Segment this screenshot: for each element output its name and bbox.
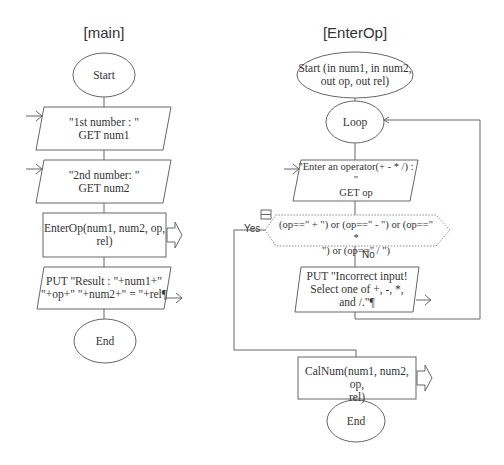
subroutine-arrow-icon [417,365,432,391]
enterop-call-label: CalNum(num1, num2, op, rel) [298,365,416,404]
main-end-label: End [75,335,135,348]
enterop-end-label: End [326,415,386,428]
enterop-error-label: PUT "Incorrect input! Select one of +, -… [298,270,416,309]
no-label: No [362,249,375,260]
enterop-start-label: Start (in num1, in num2, out op, out rel… [297,62,413,88]
main-start-label: Start [74,69,134,82]
breakpoint-icon[interactable] [261,210,271,219]
main-call-label: EnterOp(num1, num2, op, rel) [43,222,166,248]
flowchart-canvas: [main] Start "1st number : " GET num1 "2… [0,0,504,465]
main-input1-label: "1st number : " GET num1 [40,116,168,142]
enterop-input-label: "Enter an operator(+ - * /) : " GET op [296,160,416,199]
yes-label: Yes [244,223,260,234]
enterop-title: [EnterOp] [310,24,400,41]
main-input2-label: "2nd number: " GET num2 [40,169,168,195]
error-output-arrow-icon [416,295,431,305]
enterop-loop-label: Loop [325,116,385,129]
main-title: [main] [74,24,134,41]
enterop-decision-label: (op==" + ") or (op==" - ") or (op==" * "… [276,218,436,257]
main-output-label: PUT "Result : "+num1+" "+op+" "+num2+" =… [38,275,170,301]
subroutine-arrow-icon [167,222,182,248]
